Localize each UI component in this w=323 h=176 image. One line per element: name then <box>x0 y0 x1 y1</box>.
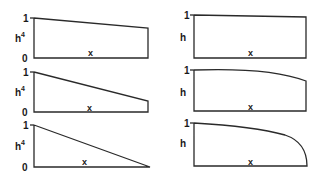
x-axis-label: x <box>248 48 253 58</box>
tick-label-1: 1 <box>184 118 190 129</box>
tick-label-1: 1 <box>23 67 29 78</box>
tick-label-0: 0 <box>22 107 28 118</box>
x-axis-label: x <box>248 102 253 112</box>
tick-label-1: 1 <box>23 13 29 24</box>
right-panel-3: 1 h x <box>180 118 307 167</box>
y-axis-label: h4 <box>15 31 25 44</box>
x-axis-label: x <box>87 103 92 113</box>
tick-label-1: 1 <box>23 120 29 131</box>
y-axis-label: h <box>180 87 186 98</box>
y-axis-label: h <box>180 138 186 149</box>
right-panel-1: 1 h x <box>180 10 306 58</box>
y-axis-label: h <box>180 32 186 43</box>
x-axis-label: x <box>88 48 93 58</box>
right-panel-2: 1 h x <box>180 65 306 112</box>
y-axis-label: h4 <box>15 139 25 152</box>
tick-label-0: 0 <box>22 53 28 64</box>
x-axis-label: x <box>248 157 253 167</box>
left-panel-3: 1 h4 0 x <box>15 120 150 173</box>
tick-label-1: 1 <box>184 65 190 76</box>
y-axis-label: h4 <box>15 85 25 98</box>
tick-label-1: 1 <box>184 10 190 21</box>
tick-label-0: 0 <box>22 162 28 173</box>
left-panel-2: 1 h4 0 x <box>15 67 148 118</box>
left-panel-1: 1 h4 0 x <box>15 13 148 64</box>
x-axis-label: x <box>82 157 87 167</box>
diagram-figure: 1 h4 0 x 1 h4 0 x 1 h4 0 x 1 h x 1 h x 1 <box>0 0 323 176</box>
